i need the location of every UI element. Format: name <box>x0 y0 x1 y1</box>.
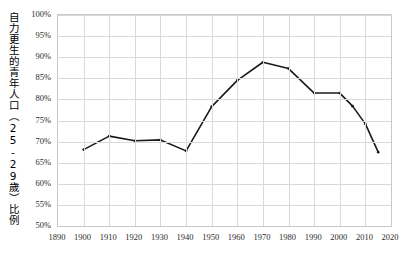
gridline-horizontal <box>58 78 391 79</box>
y-tick-label: 85% <box>5 72 51 82</box>
gridline-horizontal <box>58 121 391 122</box>
gridline-vertical <box>237 15 238 226</box>
y-tick-label: 70% <box>5 136 51 146</box>
series-line <box>84 62 379 152</box>
chart-container: 自力更生的青年人口（25-29歲）比例 50%55%60%65%70%75%80… <box>0 0 406 263</box>
gridline-horizontal <box>58 142 391 143</box>
gridline-horizontal <box>58 57 391 58</box>
data-point <box>351 105 354 108</box>
plot-area <box>57 14 392 227</box>
gridline-horizontal <box>58 205 391 206</box>
y-tick-label: 60% <box>5 178 51 188</box>
y-tick-label: 65% <box>5 157 51 167</box>
gridline-vertical <box>109 15 110 226</box>
data-point <box>377 151 380 154</box>
x-tick-label: 2020 <box>370 232 406 242</box>
y-tick-label: 80% <box>5 93 51 103</box>
gridline-vertical <box>263 15 264 226</box>
gridline-vertical <box>365 15 366 226</box>
gridline-horizontal <box>58 36 391 37</box>
y-tick-label: 55% <box>5 199 51 209</box>
gridline-vertical <box>160 15 161 226</box>
y-tick-label: 100% <box>5 9 51 19</box>
gridline-horizontal <box>58 184 391 185</box>
gridline-vertical <box>340 15 341 226</box>
gridline-horizontal <box>58 163 391 164</box>
gridline-vertical <box>135 15 136 226</box>
y-tick-label: 50% <box>5 220 51 230</box>
gridline-horizontal <box>58 99 391 100</box>
gridline-horizontal <box>58 15 391 16</box>
y-tick-label: 90% <box>5 51 51 61</box>
gridline-vertical <box>314 15 315 226</box>
gridline-vertical <box>212 15 213 226</box>
gridline-vertical <box>84 15 85 226</box>
gridline-vertical <box>186 15 187 226</box>
gridline-vertical <box>289 15 290 226</box>
y-tick-label: 95% <box>5 30 51 40</box>
y-tick-label: 75% <box>5 115 51 125</box>
